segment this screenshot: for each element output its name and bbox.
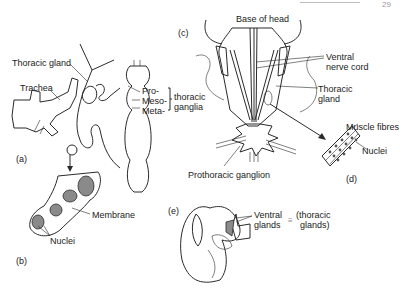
panel-tag-a: (a) <box>16 154 27 164</box>
label-thoracic-gland-c-line1: Thoracic <box>318 84 353 94</box>
label-trachea: Trachea <box>20 83 53 93</box>
label-pro: Pro- <box>142 86 159 96</box>
label-base-of-head: Base of head <box>236 14 289 24</box>
label-ventral-nerve-cord-line1: Ventral <box>326 52 354 62</box>
panel-tag-c: (c) <box>178 28 189 38</box>
panel-tag-b: (b) <box>16 256 27 266</box>
label-muscle-fibres: Muscle fibres <box>346 122 399 132</box>
label-nuclei-b: Nuclei <box>50 236 75 246</box>
figure-drawing <box>0 0 404 292</box>
label-thoracic-gland: Thoracic gland <box>12 58 71 68</box>
label-prothoracic-ganglion: Prothoracic ganglion <box>188 170 270 180</box>
label-glands-paren: glands) <box>300 220 330 230</box>
label-thoracic-gland-c-line2: gland <box>318 94 340 104</box>
ganglia-chain <box>125 60 151 192</box>
label-ganglia: ganglia <box>174 102 203 112</box>
label-membrane: Membrane <box>92 210 135 220</box>
label-meso: Meso- <box>142 96 167 106</box>
label-ventral: Ventral <box>254 210 282 220</box>
label-meta: Meta- <box>142 106 165 116</box>
label-thoracic-paren: (thoracic <box>296 210 331 220</box>
prothoracic-ganglion <box>216 124 296 166</box>
label-ventral-nerve-cord-line2: nerve cord <box>326 62 369 72</box>
head-section-drawing <box>181 207 250 283</box>
label-nuclei-d: Nuclei <box>362 146 387 156</box>
label-glands: glands <box>254 220 281 230</box>
panel-tag-d: (d) <box>346 174 357 184</box>
label-thoracic: thoracic <box>174 92 206 102</box>
gland-cells <box>30 172 101 236</box>
panel-tag-e: (e) <box>168 206 179 216</box>
thoracic-gland-coil <box>77 44 120 168</box>
magnify-circle <box>67 145 77 155</box>
ventral-nerve-cord <box>250 28 257 122</box>
label-equivalent-symbol: ≡ <box>288 216 293 226</box>
